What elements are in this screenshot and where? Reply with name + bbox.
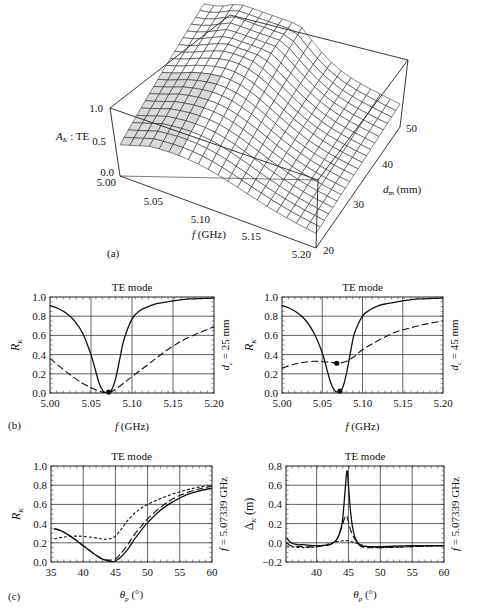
plot-title: TE mode: [111, 450, 152, 462]
y-tick-label: 0.2: [268, 518, 282, 530]
y-tick-label: −0.2: [262, 556, 282, 568]
plot-title: TE mode: [342, 281, 383, 293]
y-tick-label: 0.2: [33, 537, 47, 549]
plot-frame: [51, 466, 212, 562]
panel-label-c: (c): [8, 590, 21, 603]
y-tick-label: 0.4: [33, 518, 47, 530]
series-solid: [287, 471, 444, 547]
series-long-dashed: [54, 486, 212, 560]
y-tick-label: 0.6: [268, 479, 282, 491]
y-axis-label: RK: [8, 339, 24, 352]
y-tick-label: 0.8: [33, 479, 47, 491]
side-parameter-label: dc = 25 mm: [219, 319, 234, 371]
x-axis-label: θp (°): [120, 588, 144, 603]
x-tick-label: 60: [439, 566, 451, 578]
y-tick-label: 0.2: [32, 368, 46, 380]
panel-label-a: (a): [107, 247, 120, 260]
f-tick: 5.00: [97, 176, 117, 188]
x-tick-label: 5.05: [313, 397, 333, 409]
y-tick-label: 0.6: [264, 329, 278, 341]
side-parameter-label: f = 5.07339 GHz: [217, 477, 229, 551]
y-tick-label: 0.4: [268, 498, 282, 510]
y-tick-label: 0.0: [268, 537, 282, 549]
x-tick-label: 45: [110, 566, 122, 578]
panel-label-b: (b): [8, 419, 21, 432]
x-tick-label: 5.15: [163, 397, 183, 409]
z-axis: 1.0 0.5 0.0 AK : TE: [55, 102, 115, 178]
f-tick: 5.20: [292, 248, 312, 260]
y-tick-label: 1.0: [264, 291, 278, 303]
plot-b_right: 0.00.20.40.60.81.05.005.055.105.155.20TE…: [242, 281, 463, 433]
x-tick-label: 50: [375, 566, 387, 578]
z-axis-label: AK : TE: [55, 130, 89, 144]
side-parameter-label: f = 5.07339 GHz: [449, 477, 461, 551]
d-tick: 40: [382, 158, 394, 170]
d-tick: 50: [406, 122, 418, 134]
x-tick-label: 5.10: [122, 397, 142, 409]
d-tick: 20: [323, 244, 335, 256]
x-tick-label: 40: [311, 566, 323, 578]
y-tick-label: 0.4: [32, 349, 46, 361]
y-tick-label: 1.0: [33, 460, 47, 472]
x-tick-label: 5.20: [204, 397, 224, 409]
plot-c_right: −0.20.00.20.40.60.84045505560TE modeθp (…: [242, 450, 461, 603]
y-axis-label: RK: [9, 508, 25, 521]
x-tick-label: 40: [78, 566, 90, 578]
y-tick-label: 0.2: [264, 368, 278, 380]
y-tick-label: 1.0: [32, 291, 46, 303]
x-tick-label: 35: [46, 566, 58, 578]
side-parameter-label: dc = 45 mm: [448, 319, 463, 371]
f-tick: 5.10: [191, 213, 211, 225]
plot-c_left: 0.00.20.40.60.81.0354045505560TE modeθp …: [9, 450, 229, 603]
x-tick-label: 5.00: [272, 397, 292, 409]
y-axis-label: RK: [242, 339, 258, 352]
x-tick-label: 5.05: [81, 397, 101, 409]
d-tick: 30: [353, 198, 365, 210]
x-tick-label: 45: [343, 566, 355, 578]
x-axis-label: θp (°): [353, 588, 377, 603]
y-tick-label: 0.8: [264, 310, 278, 322]
line-plots: 0.00.20.40.60.81.05.005.055.105.155.20TE…: [8, 281, 463, 603]
plot-frame: [286, 466, 444, 562]
plot-b_left: 0.00.20.40.60.81.05.005.055.105.155.20TE…: [8, 281, 234, 433]
data-marker: [337, 388, 342, 393]
x-tick-label: 50: [142, 566, 154, 578]
x-axis-label: f (GHz): [115, 420, 149, 433]
panel-a-surface-plot: 1.0 0.5 0.0 AK : TE 5.00 5.05 5.10 5.15 …: [55, 4, 421, 260]
d-axis-label: dm (mm): [383, 183, 421, 197]
plot-title: TE mode: [112, 281, 153, 293]
x-tick-label: 55: [174, 566, 186, 578]
y-axis-label: ΔK (m): [242, 498, 258, 531]
z-tick: 0.5: [92, 135, 106, 147]
y-tick-label: 0.8: [268, 460, 282, 472]
z-tick: 1.0: [89, 102, 103, 114]
x-tick-label: 5.15: [393, 397, 413, 409]
x-tick-label: 60: [207, 566, 219, 578]
f-axis-label: f (GHz): [192, 228, 226, 241]
y-tick-label: 0.4: [264, 349, 278, 361]
y-tick-label: 0.8: [32, 310, 46, 322]
data-marker: [106, 389, 111, 394]
f-tick: 5.05: [144, 195, 164, 207]
f-tick: 5.15: [242, 230, 262, 242]
data-marker: [334, 361, 339, 366]
figure: 1.0 0.5 0.0 AK : TE 5.00 5.05 5.10 5.15 …: [0, 0, 477, 610]
series-solid: [54, 488, 212, 562]
plot-title: TE mode: [345, 450, 386, 462]
x-tick-label: 5.20: [433, 397, 453, 409]
x-tick-label: 55: [407, 566, 419, 578]
x-tick-label: 5.00: [40, 397, 60, 409]
y-tick-label: 0.6: [32, 329, 46, 341]
x-axis-label: f (GHz): [346, 420, 380, 433]
y-tick-label: 0.6: [33, 498, 47, 510]
x-tick-label: 5.10: [353, 397, 373, 409]
